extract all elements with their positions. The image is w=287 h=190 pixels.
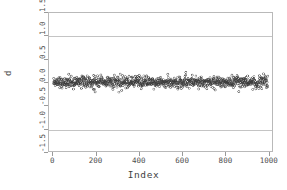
x-tick-label: 600 [175,157,189,165]
y-tick-label-text: 1.0 [39,22,47,36]
y-tick-label-text: -0.5 [39,87,47,105]
x-axis-title: Index [0,170,287,180]
y-tick-label: -1.0 [39,120,47,138]
y-tick-label: 0.0 [39,75,47,89]
y-tick-label-text: 1.5 [39,0,47,12]
y-tick-label: 1.0 [39,29,47,43]
y-axis: -1.5-1.0-0.50.00.51.01.5 [0,12,48,152]
y-tick-label: -1.5 [39,143,47,161]
x-tick-label: 1000 [260,157,278,165]
scatter-plot-figure: -1.5-1.0-0.50.00.51.01.5 d 0200400600800… [0,0,287,190]
y-tick-label: 1.5 [39,5,47,19]
y-tick-label-text: 0.5 [39,45,47,59]
plot-area [48,12,273,152]
x-axis: 02004006008001000 [48,152,273,166]
y-tick-label: -0.5 [39,96,47,114]
x-tick-label: 400 [132,157,146,165]
y-axis-title: d [4,71,13,76]
y-tick-label-text: 0.0 [39,68,47,82]
scatter-points-layer [49,13,272,151]
y-tick-label: 0.5 [39,52,47,66]
x-tick-label: 0 [50,157,55,165]
x-tick-label: 200 [89,157,103,165]
x-tick-label: 800 [219,157,233,165]
